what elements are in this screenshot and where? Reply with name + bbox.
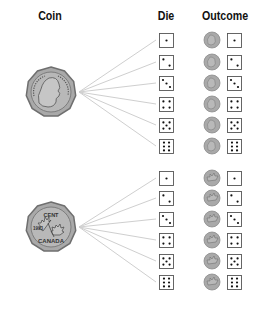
die-pip (230, 194, 232, 196)
die-pip (169, 86, 171, 88)
small-coin-heads-icon (204, 32, 220, 48)
outcome-die-5-icon (228, 119, 242, 133)
outcome-die-6-icon (228, 140, 242, 154)
small-coin-tails-icon (204, 170, 220, 186)
small-coin-tails-icon (204, 211, 220, 227)
coin-canada-text: CANADA (38, 238, 65, 244)
die-pip (168, 149, 170, 151)
die-face-2-icon (160, 56, 174, 70)
branch-line (79, 92, 156, 146)
die-pip (236, 285, 238, 287)
outcome-die-4-icon (228, 98, 242, 112)
die-pip (165, 218, 167, 220)
branch-line (79, 92, 156, 125)
outcome-die-1-icon (228, 172, 242, 186)
die-pip (233, 39, 235, 41)
small-portrait (207, 120, 215, 130)
tree-diagram: CENT1993CANADA (0, 0, 262, 309)
die-border (160, 276, 174, 290)
die-face-4-icon (160, 234, 174, 248)
die-border (228, 56, 242, 70)
die-pip (236, 277, 238, 279)
die-pip (230, 121, 232, 123)
die-pip (162, 257, 164, 259)
die-pip (230, 58, 232, 60)
die-pip (230, 127, 232, 129)
die-pip (236, 281, 238, 283)
die-pip (236, 263, 238, 265)
die-face-2-icon (160, 192, 174, 206)
die-pip (236, 257, 238, 259)
die-pip (230, 257, 232, 259)
die-border (160, 98, 174, 112)
die-pip (163, 285, 165, 287)
die-pip (165, 177, 167, 179)
die-pip (165, 124, 167, 126)
die-face-5-icon (160, 255, 174, 269)
die-face-4-icon (160, 98, 174, 112)
die-border (228, 140, 242, 154)
branch-line (79, 227, 156, 240)
die-pip (236, 200, 238, 202)
die-pip (231, 145, 233, 147)
die-pip (230, 263, 232, 265)
die-pip (168, 121, 170, 123)
die-face-3-icon (160, 213, 174, 227)
die-pip (163, 145, 165, 147)
coin-heads-icon (26, 67, 75, 116)
die-pip (168, 277, 170, 279)
die-border (160, 192, 174, 206)
outcome-die-2-icon (228, 192, 242, 206)
outcome-die-3-icon (228, 77, 242, 91)
die-pip (231, 149, 233, 151)
die-pip (230, 79, 232, 81)
small-coin-tails-icon (204, 274, 220, 290)
die-pip (168, 127, 170, 129)
die-pip (162, 194, 164, 196)
die-pip (230, 100, 232, 102)
die-border (228, 192, 242, 206)
outcome-die-6-icon (228, 276, 242, 290)
die-face-1-icon (160, 172, 174, 186)
die-face-6-icon (160, 276, 174, 290)
small-coin-tails-icon (204, 190, 220, 206)
die-pip (162, 79, 164, 81)
die-pip (236, 236, 238, 238)
die-pip (165, 39, 167, 41)
die-pip (236, 149, 238, 151)
die-pip (230, 215, 232, 217)
outcome-die-2-icon (228, 56, 242, 70)
die-pip (236, 242, 238, 244)
die-pip (165, 82, 167, 84)
die-pip (168, 106, 170, 108)
small-coin-heads-icon (204, 117, 220, 133)
die-border (228, 98, 242, 112)
die-pip (168, 242, 170, 244)
die-pip (162, 121, 164, 123)
die-pip (231, 141, 233, 143)
die-pip (162, 106, 164, 108)
die-border (160, 56, 174, 70)
die-pip (236, 145, 238, 147)
die-border (228, 276, 242, 290)
die-pip (231, 281, 233, 283)
die-pip (236, 64, 238, 66)
die-pip (233, 177, 235, 179)
die-pip (168, 281, 170, 283)
die-border (160, 234, 174, 248)
die-border (228, 234, 242, 248)
die-pip (233, 260, 235, 262)
die-pip (230, 242, 232, 244)
die-pip (162, 215, 164, 217)
die-pip (168, 200, 170, 202)
die-face-3-icon (160, 77, 174, 91)
die-pip (168, 257, 170, 259)
die-face-5-icon (160, 119, 174, 133)
die-pip (231, 285, 233, 287)
die-pip (163, 277, 165, 279)
small-coin-tails-icon (204, 253, 220, 269)
die-pip (162, 127, 164, 129)
small-coin-heads-icon (204, 54, 220, 70)
die-pip (230, 236, 232, 238)
die-pip (233, 82, 235, 84)
